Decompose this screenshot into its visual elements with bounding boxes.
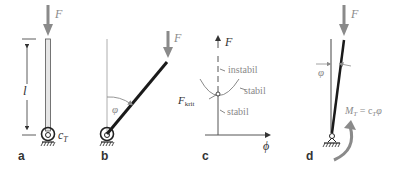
force-label: F: [54, 7, 63, 21]
critical-load-label: Fkrit: [177, 94, 195, 108]
force-label: F: [173, 31, 182, 45]
panel-d: F φ MT = cTφ d: [306, 5, 382, 163]
deflected-rod: [332, 40, 344, 133]
bifurcation-point: [216, 92, 220, 96]
x-axis-label: ϕ: [263, 139, 269, 153]
panel-b: F φ b: [100, 31, 182, 163]
force-arrow-icon: [163, 31, 173, 58]
deflected-rod: [107, 62, 167, 134]
force-label: F: [350, 7, 359, 21]
buckling-diagram: F l cT a F φ: [0, 0, 401, 169]
moment-label: MT = cTφ: [344, 105, 382, 118]
panel-label-b: b: [101, 149, 108, 163]
spring-label: cT: [58, 128, 68, 144]
panel-label-c: c: [202, 149, 209, 163]
force-arrow-icon: [43, 5, 53, 36]
panel-label-d: d: [306, 149, 313, 163]
stabil-curve-label: stabil: [244, 85, 266, 96]
pin-support-icon: [323, 134, 340, 148]
y-axis-label: F: [224, 35, 233, 49]
length-label: l: [23, 83, 27, 98]
instabil-label: instabil: [228, 64, 258, 75]
angle-arc-icon: [107, 97, 131, 104]
angle-label: φ: [112, 103, 118, 115]
panel-a: F l cT a: [18, 5, 68, 163]
angle-arrow-right-icon: [341, 64, 351, 66]
force-arrow-icon: [339, 5, 349, 36]
panel-c: F ϕ instabil stabil stabil Fkrit c: [177, 35, 269, 163]
angle-label: φ: [318, 66, 324, 78]
panel-label-a: a: [18, 149, 25, 163]
rod: [46, 39, 51, 131]
stabil-axis-label: stabil: [227, 106, 249, 117]
